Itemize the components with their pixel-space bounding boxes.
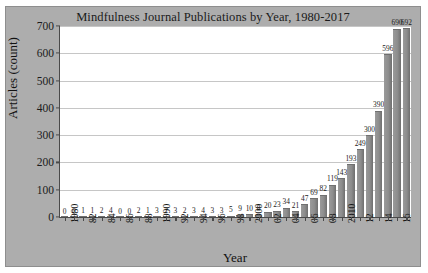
bar-slot[interactable]: 2 — [162, 26, 171, 217]
bar-slot[interactable]: 2 — [180, 26, 189, 217]
bar-value-label: 20 — [264, 202, 271, 209]
bar-slot[interactable]: 4 — [199, 26, 208, 217]
bar-slot[interactable]: 690 — [393, 26, 402, 217]
x-tick-mark — [139, 217, 140, 221]
bar-slot[interactable]: 2 — [134, 26, 143, 217]
bar[interactable] — [338, 178, 345, 217]
bar[interactable] — [283, 208, 290, 217]
bar-value-label: 34 — [283, 198, 290, 205]
bar-slot[interactable]: 10 — [245, 26, 254, 217]
bar[interactable] — [366, 135, 373, 217]
x-tick-mark — [148, 217, 149, 221]
bar-slot[interactable]: 47 — [300, 26, 309, 217]
bar-slot[interactable]: 21 — [291, 26, 300, 217]
bar[interactable] — [393, 29, 400, 217]
bar-slot[interactable]: 692 — [402, 26, 411, 217]
x-tick-mark — [388, 217, 389, 221]
x-tick-mark — [92, 217, 93, 221]
x-tick-mark — [286, 217, 287, 221]
x-tick-mark — [194, 217, 195, 221]
bar-value-label: 5 — [229, 206, 233, 213]
bar-slot[interactable]: 3 — [152, 26, 161, 217]
bar[interactable] — [384, 54, 391, 217]
x-tick-mark — [203, 217, 204, 221]
bar-slot[interactable]: 3 — [189, 26, 198, 217]
bar-slot[interactable]: 300 — [365, 26, 374, 217]
bar-slot[interactable]: 1 — [78, 26, 87, 217]
bar-slot[interactable]: 143 — [337, 26, 346, 217]
bar-slot[interactable]: 2 — [97, 26, 106, 217]
y-tick-label: 100 — [37, 184, 54, 196]
x-tick-mark — [120, 217, 121, 221]
x-tick-mark — [268, 217, 269, 221]
bar-slot[interactable]: 0 — [60, 26, 69, 217]
x-tick-mark — [185, 217, 186, 221]
bar-slot[interactable]: 34 — [282, 26, 291, 217]
bar-value-label: 3 — [155, 207, 159, 214]
x-tick-mark — [360, 217, 361, 221]
bar-slot[interactable]: 23 — [272, 26, 281, 217]
bar-value-label: 692 — [401, 19, 412, 26]
bar[interactable] — [301, 204, 308, 217]
bar[interactable] — [375, 111, 382, 217]
y-tick-label: 500 — [37, 75, 54, 87]
bar-slot[interactable]: 8 — [254, 26, 263, 217]
y-tick-label: 300 — [37, 129, 54, 141]
bar-slot[interactable]: 0 — [115, 26, 124, 217]
bar-slot[interactable]: 0 — [69, 26, 78, 217]
x-tick-mark — [240, 217, 241, 221]
bar-slot[interactable]: 20 — [263, 26, 272, 217]
bar-slot[interactable]: 4 — [106, 26, 115, 217]
bar-value-label: 2 — [100, 207, 104, 214]
bar-slot[interactable]: 5 — [226, 26, 235, 217]
bar-value-label: 3 — [192, 207, 196, 214]
y-tick-label: 700 — [37, 20, 54, 32]
bar-slot[interactable]: 3 — [208, 26, 217, 217]
x-tick-mark — [111, 217, 112, 221]
bar-slot[interactable]: 1 — [88, 26, 97, 217]
y-tick-label: 200 — [37, 156, 54, 168]
x-tick-mark — [406, 217, 407, 221]
x-tick-mark — [277, 217, 278, 221]
bar-slot[interactable]: 0 — [125, 26, 134, 217]
chart-figure: Mindfulness Journal Publications by Year… — [5, 6, 421, 267]
bar-value-label: 3 — [174, 207, 178, 214]
bar-slot[interactable]: 9 — [236, 26, 245, 217]
bar-value-label: 82 — [320, 185, 327, 192]
bar-value-label: 21 — [292, 202, 299, 209]
bar-slot[interactable]: 249 — [356, 26, 365, 217]
x-tick-mark — [222, 217, 223, 221]
x-tick-mark — [342, 217, 343, 221]
bar[interactable] — [357, 149, 364, 217]
x-tick-mark — [323, 217, 324, 221]
x-tick-mark — [175, 217, 176, 221]
bar-value-label: 1 — [81, 207, 85, 214]
x-tick-mark — [314, 217, 315, 221]
bar-slot[interactable]: 390 — [374, 26, 383, 217]
bar-value-label: 23 — [273, 201, 280, 208]
x-tick-mark — [369, 217, 370, 221]
bar-slot[interactable]: 193 — [346, 26, 355, 217]
bar[interactable] — [403, 28, 410, 217]
bar-value-label: 0 — [118, 208, 122, 215]
y-tick-label: 400 — [37, 102, 54, 114]
bar-slot[interactable]: 596 — [383, 26, 392, 217]
bar-slot[interactable]: 119 — [328, 26, 337, 217]
x-tick-mark — [129, 217, 130, 221]
x-tick-mark — [259, 217, 260, 221]
bar-slot[interactable]: 3 — [217, 26, 226, 217]
x-tick-mark — [305, 217, 306, 221]
x-tick-mark — [102, 217, 103, 221]
x-axis-title: Year — [59, 250, 411, 266]
bar-slot[interactable]: 82 — [319, 26, 328, 217]
x-tick-mark — [397, 217, 398, 221]
x-tick-mark — [65, 217, 66, 221]
bar-slot[interactable]: 1 — [143, 26, 152, 217]
bar-slot[interactable]: 69 — [309, 26, 318, 217]
bar[interactable] — [320, 195, 327, 217]
y-axis-title: Articles (count) — [5, 37, 21, 119]
x-tick-mark — [379, 217, 380, 221]
bar-value-label: 10 — [246, 205, 253, 212]
x-tick-mark — [296, 217, 297, 221]
bar-slot[interactable]: 3 — [171, 26, 180, 217]
